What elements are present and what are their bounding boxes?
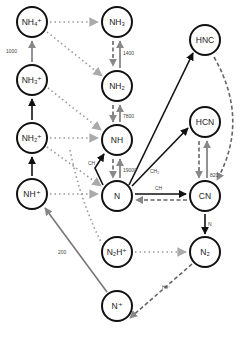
nitrogen-chemistry-network: 1000 1400 7800 19000 CH CH₂ CH 820 N 200… — [0, 0, 243, 342]
node-n-plus: N⁺ — [101, 290, 133, 322]
label-n-hnc-ch2: CH₂ — [150, 168, 159, 174]
edge-n-hcn — [132, 128, 188, 186]
node-n: N — [101, 180, 133, 212]
label-n2-np: He⁺ — [162, 284, 171, 290]
label-n-cn-ch: CH — [155, 185, 162, 191]
label-nh3p-nh4p: 1000 — [6, 48, 17, 54]
label-nh-nh2: 7800 — [123, 113, 134, 119]
node-nh2-plus: NH₂⁺ — [16, 122, 48, 154]
edge-nh2p-n — [47, 147, 101, 186]
edge-n2-np — [130, 264, 192, 318]
node-n2h-plus: N₂H⁺ — [101, 236, 133, 268]
edge-n-hnc — [129, 53, 193, 185]
label-cn-n2: N — [208, 221, 212, 227]
label-np-nhp: 200 — [58, 249, 66, 255]
label-n-nh-ch: CH — [88, 160, 95, 166]
node-nh3-plus: NH₃⁺ — [16, 64, 48, 96]
node-nh: NH — [101, 124, 133, 156]
node-n2: N₂ — [189, 236, 221, 268]
edge-n-nh-ch — [95, 154, 104, 185]
node-nh-plus: NH⁺ — [16, 178, 48, 210]
node-nh4-plus: NH₄⁺ — [16, 6, 48, 38]
node-hnc: HNC — [189, 24, 221, 56]
edge-np-nhp — [45, 208, 107, 292]
node-nh3: NH₃ — [101, 6, 133, 38]
node-cn: CN — [189, 180, 221, 212]
label-nh2-nh3: 1400 — [123, 50, 134, 56]
node-nh2: NH₂ — [101, 70, 133, 102]
edge-nh2p-n2hp — [70, 150, 101, 242]
edge-nh3p-nh — [48, 88, 101, 130]
edge-nh4p-nh2 — [47, 32, 102, 76]
label-n-nh: 19000 — [123, 167, 137, 173]
node-hcn: HCN — [189, 106, 221, 138]
label-cn-hcn: 820 — [210, 172, 218, 178]
